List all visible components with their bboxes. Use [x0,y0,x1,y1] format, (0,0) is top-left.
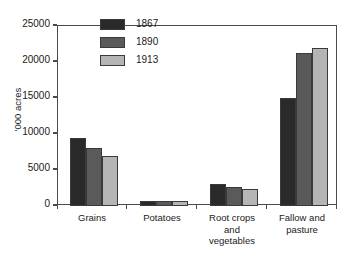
x-axis-category-line: pasture [267,224,337,236]
x-axis-category-line: Potatoes [127,212,197,224]
y-tick-label: 15000 [22,90,50,101]
plot-area [57,25,337,205]
bar [102,156,118,206]
x-axis-category-line: Grains [57,212,127,224]
bar [86,148,102,206]
x-axis-category-label: Root cropsandvegetables [197,212,267,247]
y-tick-label: 25000 [22,18,50,29]
legend-swatch-1867 [100,19,125,30]
y-tick-label: 5000 [28,162,50,173]
x-axis-category-line: Fallow and [267,212,337,224]
legend-label-1913: 1913 [136,54,158,65]
x-axis-category-label: Fallow andpasture [267,212,337,235]
legend-swatch-1890 [100,37,125,48]
x-axis-category-line: and [197,224,267,236]
x-tick-mark [57,205,58,209]
bar [242,189,258,206]
y-tick-label: 20000 [22,54,50,65]
x-axis-category-label: Grains [57,212,127,224]
legend-label-1867: 1867 [136,18,158,29]
y-axis-title: '000 acres [12,65,23,155]
bar [226,187,242,206]
y-tick-label: 10000 [22,126,50,137]
bar [280,98,296,206]
bar-chart: '000 acres 0500010000150002000025000 Gra… [0,0,359,264]
bar [210,184,226,206]
bar [172,201,188,206]
x-tick-mark [126,205,127,209]
legend-label-1890: 1890 [136,36,158,47]
bar [312,48,328,206]
x-axis-category-line: Root crops [197,212,267,224]
bar [70,138,86,206]
bar [156,201,172,206]
legend-swatch-1913 [100,55,125,66]
x-tick-mark [196,205,197,209]
x-tick-mark [336,205,337,209]
x-axis-category-label: Potatoes [127,212,197,224]
bar [140,201,156,206]
x-tick-mark [266,205,267,209]
x-axis-category-line: vegetables [197,235,267,247]
bar [296,53,312,206]
y-tick-label: 0 [44,198,50,209]
